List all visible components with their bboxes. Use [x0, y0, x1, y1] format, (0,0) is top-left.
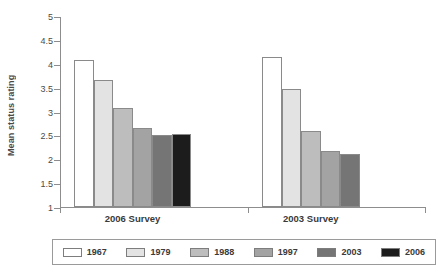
legend-item[interactable]: 2006: [381, 247, 425, 257]
y-tick-label: 3: [22, 108, 53, 118]
y-tick-label: 5: [22, 12, 53, 22]
legend-item-label: 2006: [405, 247, 425, 257]
plot-area: 11.522.533.544.55: [60, 17, 426, 208]
group-label: 2003 Survey: [283, 213, 338, 224]
bar: [94, 80, 114, 207]
y-tick-label: 1: [22, 203, 53, 213]
x-tick: [60, 208, 61, 213]
y-tick: [54, 89, 60, 90]
bar: [262, 57, 282, 207]
bar: [74, 60, 94, 207]
y-tick: [54, 113, 60, 114]
bar: [301, 131, 321, 207]
legend-item-label: 1988: [214, 247, 234, 257]
y-axis-line: [60, 17, 61, 208]
legend-swatch-icon: [254, 248, 273, 257]
legend-swatch-icon: [126, 248, 145, 257]
y-tick: [54, 184, 60, 185]
group-label: 2006 Survey: [105, 213, 160, 224]
y-tick-label: 4.5: [22, 36, 53, 46]
legend-item-label: 2003: [341, 247, 361, 257]
bar: [340, 154, 360, 207]
legend-item[interactable]: 1967: [63, 247, 107, 257]
y-tick: [54, 41, 60, 42]
legend-swatch-icon: [381, 248, 400, 257]
bar: [282, 89, 302, 207]
bar: [152, 135, 172, 207]
x-axis-line: [60, 207, 426, 208]
legend-swatch-icon: [63, 248, 82, 257]
bar: [133, 128, 153, 207]
legend-swatch-icon: [190, 248, 209, 257]
legend-item[interactable]: 2003: [317, 247, 361, 257]
y-tick: [54, 65, 60, 66]
legend-item-label: 1997: [278, 247, 298, 257]
y-tick-label: 1.5: [22, 179, 53, 189]
legend-item-label: 1967: [87, 247, 107, 257]
y-tick: [54, 160, 60, 161]
bar: [113, 108, 133, 207]
y-tick-label: 4: [22, 60, 53, 70]
legend-item[interactable]: 1988: [190, 247, 234, 257]
legend-item[interactable]: 1979: [126, 247, 170, 257]
chart-legend: 196719791988199720032006: [52, 239, 436, 265]
legend-item-label: 1979: [150, 247, 170, 257]
bar: [321, 151, 341, 207]
bar: [172, 134, 192, 207]
y-axis-title: Mean status rating: [4, 52, 18, 178]
legend-swatch-icon: [317, 248, 336, 257]
y-tick-label: 3.5: [22, 84, 53, 94]
x-tick: [425, 208, 426, 213]
chart-root: Mean status rating 11.522.533.544.55 200…: [0, 0, 448, 277]
legend-item[interactable]: 1997: [254, 247, 298, 257]
y-tick-label: 2: [22, 155, 53, 165]
x-tick: [248, 208, 249, 213]
y-tick: [54, 17, 60, 18]
y-tick: [54, 136, 60, 137]
y-tick-label: 2.5: [22, 131, 53, 141]
